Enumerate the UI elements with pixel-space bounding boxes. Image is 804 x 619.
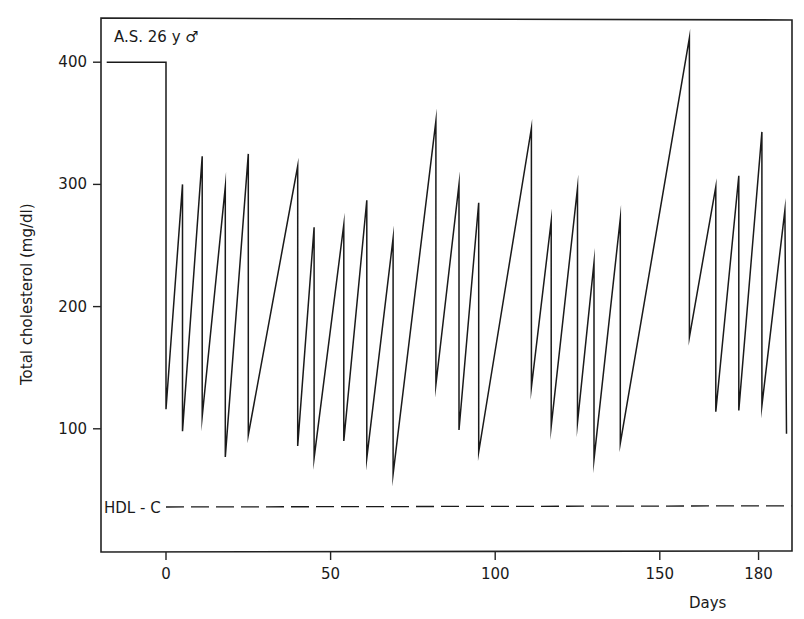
y-tick-label: 400 [58, 53, 87, 71]
cholesterol-chart: 100200300400 050100150180 Total choleste… [0, 0, 804, 619]
subject-annotation: A.S. 26 y ♂ [114, 28, 199, 46]
plot-frame [101, 18, 792, 552]
y-tick-label: 100 [58, 420, 87, 438]
hdl-c-line [166, 506, 792, 507]
x-tick-label: 50 [321, 565, 340, 583]
x-tick-label: 150 [645, 565, 674, 583]
plot-border [101, 18, 792, 552]
y-axis-ticks: 100200300400 [58, 53, 101, 438]
y-tick-label: 200 [58, 298, 87, 316]
x-tick-label: 180 [744, 565, 773, 583]
x-tick-label: 100 [481, 565, 510, 583]
hdl-c-label: HDL - C [104, 499, 161, 517]
data-series [107, 38, 792, 507]
x-tick-label: 0 [161, 565, 171, 583]
x-axis-label: Days [689, 594, 727, 612]
y-axis-label: Total cholesterol (mg/dl) [18, 203, 36, 386]
x-axis-ticks: 050100150180 [161, 552, 773, 583]
total-cholesterol-line [107, 38, 787, 474]
y-tick-label: 300 [58, 175, 87, 193]
